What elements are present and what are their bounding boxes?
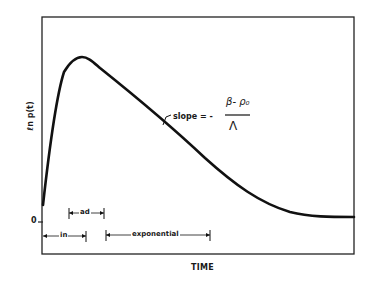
interval-in-label: in bbox=[59, 232, 68, 239]
diagram-canvas bbox=[0, 0, 370, 286]
slope-denominator: Λ bbox=[229, 120, 237, 132]
slope-label: slope = - bbox=[173, 113, 213, 121]
x-axis-label: TIME bbox=[191, 264, 214, 272]
y-axis-label: ℓn p(t) bbox=[27, 99, 35, 133]
interval-ad-label: ad bbox=[79, 209, 91, 216]
zero-tick-label: 0 bbox=[31, 217, 37, 225]
plot-frame bbox=[42, 17, 354, 254]
slope-numerator: β- ρ₀ bbox=[226, 97, 250, 107]
interval-exponential-label: exponential bbox=[131, 231, 180, 238]
ln-p-curve bbox=[43, 57, 354, 217]
